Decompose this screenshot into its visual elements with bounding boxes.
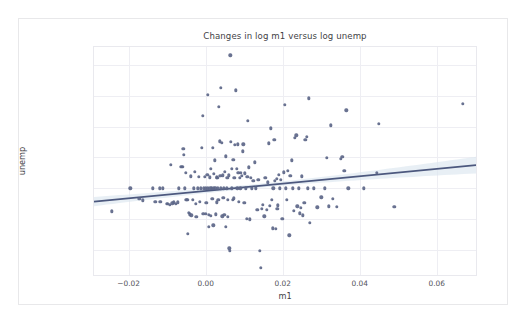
- x-tick-label: 0.06: [412, 279, 462, 288]
- x-tick-label: 0.04: [335, 279, 385, 288]
- chart-title: Changes in log m1 versus log unemp: [93, 31, 477, 41]
- x-tick-label: 0.00: [181, 279, 231, 288]
- chart-figure: Changes in log m1 versus log unemp unemp…: [0, 0, 527, 318]
- y-axis-label: unemp: [17, 147, 27, 176]
- plot-area: [93, 46, 477, 276]
- x-tick-label: 0.02: [258, 279, 308, 288]
- x-tick-label: −0.02: [104, 279, 154, 288]
- x-axis-label: m1: [278, 291, 291, 301]
- regression-line: [94, 47, 476, 275]
